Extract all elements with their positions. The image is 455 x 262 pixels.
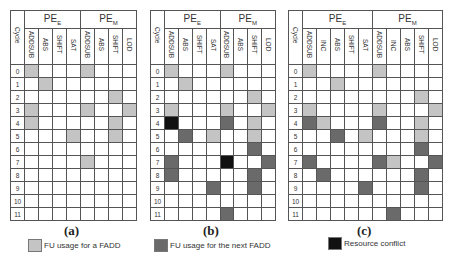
cycle-number: 8 [151,169,165,182]
cycle-number: 9 [151,182,165,195]
fu-column-label: SAT [362,39,369,51]
fu-column-label: SHIFT [112,35,119,54]
cell-empty [331,208,345,221]
cell-fu-usage-next [387,208,401,221]
cell-empty [206,65,220,78]
cell-empty [165,78,179,91]
table-row: 9 [151,182,276,195]
cell-fu-usage-next [248,169,262,182]
cycle-number: 5 [151,130,165,143]
cell-empty [123,130,137,143]
cell-empty [345,91,359,104]
cell-empty [401,156,415,169]
cell-empty [220,169,234,182]
fu-column-header: ABS [95,29,109,65]
fu-column-header: SHIFT [345,29,359,65]
fu-column-header: SAT [359,29,373,65]
cell-empty [39,65,53,78]
cell-empty [165,91,179,104]
cell-empty [67,208,81,221]
cell-empty [67,195,81,208]
fu-column-label: ABS [42,38,49,51]
cell-empty [331,195,345,208]
fu-column-header: SHIFT [248,29,262,65]
cell-empty [317,78,331,91]
cell-fu-usage [81,156,95,169]
cell-empty [373,130,387,143]
cell-fu-usage [178,78,192,91]
cell-empty [303,143,317,156]
cell-empty [234,130,248,143]
cell-empty [387,117,401,130]
cell-empty [234,195,248,208]
cell-empty [95,104,109,117]
cell-fu-usage [303,104,317,117]
cell-empty [81,91,95,104]
cell-empty [25,91,39,104]
cell-empty [345,169,359,182]
cell-empty [123,195,137,208]
cell-empty [53,78,67,91]
cycle-number: 6 [151,143,165,156]
cell-empty [401,182,415,195]
table-row: 0 [11,65,137,78]
cell-empty [415,65,429,78]
cell-fu-usage-next [206,182,220,195]
cell-empty [331,156,345,169]
table-row: 2 [151,91,276,104]
cell-empty [109,78,123,91]
cell-empty [373,91,387,104]
cell-empty [25,208,39,221]
cell-empty [67,156,81,169]
cell-empty [262,143,276,156]
cycle-number: 7 [11,156,25,169]
cell-empty [234,65,248,78]
cell-fu-usage-next [303,156,317,169]
cell-empty [206,156,220,169]
cell-empty [387,143,401,156]
table-row: 5 [289,130,443,143]
cell-empty [331,169,345,182]
cell-empty [415,104,429,117]
cell-fu-usage [39,78,53,91]
cell-fu-usage [415,117,429,130]
cell-empty [303,182,317,195]
cell-empty [39,91,53,104]
cell-fu-usage [248,117,262,130]
table-row: 7 [11,156,137,169]
cycle-number: 5 [11,130,25,143]
cell-empty [234,117,248,130]
cell-empty [53,117,67,130]
cycle-number: 10 [11,195,25,208]
cell-empty [331,91,345,104]
cycle-number: 6 [289,143,303,156]
cell-empty [429,78,443,91]
cell-empty [303,195,317,208]
cell-empty [262,65,276,78]
pe-label: PE [329,13,342,24]
cell-fu-usage [373,104,387,117]
fu-column-header: ADDSUB [25,29,39,65]
cell-fu-usage [331,78,345,91]
fu-column-header: LOD [262,29,276,65]
fu-column-header: SHIFT [109,29,123,65]
cell-empty [415,195,429,208]
cell-empty [165,208,179,221]
cell-empty [303,130,317,143]
cell-empty [39,182,53,195]
cell-empty [401,169,415,182]
cell-fu-usage [387,156,401,169]
table-row: 11 [11,208,137,221]
legend-fu-usage-next-fadd: FU usage for the next FADD [154,239,271,252]
cell-fu-usage [248,130,262,143]
cell-empty [248,208,262,221]
cell-fu-usage-next [429,156,443,169]
cell-empty [262,182,276,195]
cell-empty [95,208,109,221]
cycle-header-label: Cycle [14,27,21,43]
cell-fu-usage [25,117,39,130]
cell-empty [234,104,248,117]
cell-empty [165,182,179,195]
table-row: 9 [11,182,137,195]
fu-column-label: ADDSUB [223,31,230,58]
